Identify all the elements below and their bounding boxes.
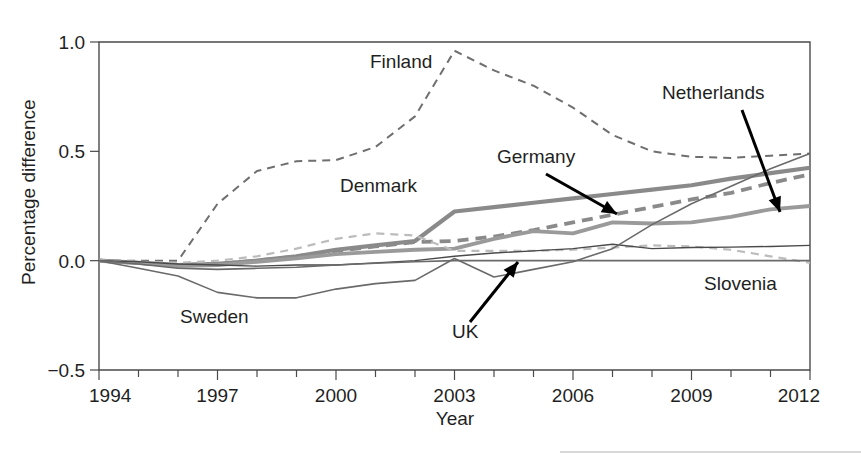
- series-label-slovenia: Slovenia: [704, 273, 777, 294]
- y-tick-label: −0.5: [47, 360, 85, 381]
- annotation-arrow-netherlands: [742, 110, 780, 212]
- x-axis-title: Year: [436, 408, 475, 429]
- series-label-finland: Finland: [370, 51, 432, 72]
- y-tick-label: 0.0: [59, 251, 85, 272]
- series-label-denmark: Denmark: [340, 175, 418, 196]
- x-tick-label: 2009: [670, 385, 712, 406]
- series-label-uk: UK: [452, 321, 479, 342]
- series-label-sweden: Sweden: [180, 306, 249, 327]
- x-tick-label: 1994: [89, 385, 132, 406]
- x-tick-label: 2000: [315, 385, 357, 406]
- y-tick-label: 0.5: [59, 141, 85, 162]
- line-chart-canvas: −0.50.00.51.0199419972000200320062009201…: [0, 0, 861, 457]
- x-tick-label: 1997: [196, 385, 238, 406]
- series-line-netherlands-lower: [99, 206, 810, 266]
- y-axis-title: Percentage difference: [18, 99, 39, 285]
- x-tick-label: 2006: [552, 385, 594, 406]
- x-tick-label: 2012: [778, 385, 820, 406]
- x-tick-label: 2003: [433, 385, 475, 406]
- series-label-netherlands: Netherlands: [662, 82, 764, 103]
- y-tick-label: 1.0: [59, 32, 85, 53]
- chart-figure: −0.50.00.51.0199419972000200320062009201…: [0, 0, 861, 457]
- series-label-germany: Germany: [497, 146, 576, 167]
